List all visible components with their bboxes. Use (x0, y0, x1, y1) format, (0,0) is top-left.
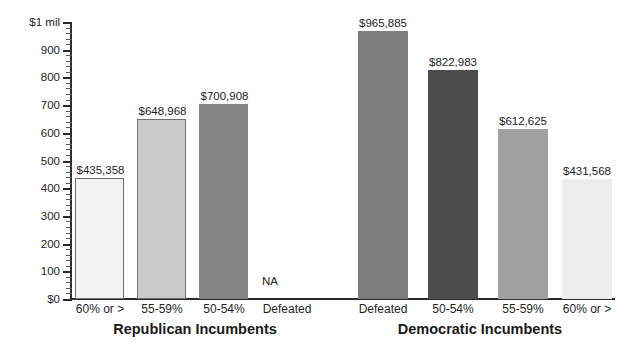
y-axis-minor-tick (66, 100, 72, 101)
y-axis-major-tick (63, 161, 72, 163)
y-axis-minor-tick (66, 94, 72, 95)
bar (358, 31, 408, 299)
y-axis-major-tick (63, 188, 72, 190)
y-axis-tick-label: 900 (0, 45, 60, 57)
group-axis-label: Republican Incumbents (60, 322, 330, 337)
y-axis-minor-tick (66, 255, 72, 256)
bar (562, 179, 612, 299)
y-axis-major-tick (63, 133, 72, 135)
y-axis-tick-label: 600 (0, 128, 60, 140)
y-axis-minor-tick (66, 293, 72, 294)
x-axis-category-label: 50-54% (191, 303, 257, 315)
bar (137, 119, 186, 299)
bar-chart: $1 mil900800700600500400300200100$0 $435… (0, 0, 629, 351)
y-axis-tick-label: 200 (0, 239, 60, 251)
x-axis-category-label: Defeated (348, 303, 418, 315)
y-axis-major-tick (63, 299, 72, 301)
y-axis-minor-tick (66, 39, 72, 40)
bar-value-label: $965,885 (352, 18, 414, 30)
y-axis-minor-tick (66, 72, 72, 73)
y-axis-minor-tick (66, 61, 72, 62)
bar-na-label: NA (262, 276, 278, 288)
bar-value-label: $700,908 (194, 91, 255, 103)
y-axis-minor-tick (66, 127, 72, 128)
y-axis-minor-tick (66, 210, 72, 211)
y-axis-minor-tick (66, 28, 72, 29)
x-axis-category-label: 60% or > (554, 303, 620, 315)
y-axis-minor-tick (66, 33, 72, 34)
x-axis-category-label: 50-54% (420, 303, 486, 315)
y-axis-major-tick (63, 105, 72, 107)
bar-value-label: $612,625 (492, 116, 554, 128)
y-axis-tick-label: $0 (0, 294, 60, 306)
y-axis-tick-label: 300 (0, 211, 60, 223)
y-axis-tick-label: 400 (0, 183, 60, 195)
y-axis-minor-tick (66, 116, 72, 117)
y-axis-minor-tick (66, 144, 72, 145)
y-axis-minor-tick (66, 227, 72, 228)
y-axis-tick-label: 100 (0, 266, 60, 278)
y-axis-minor-tick (66, 155, 72, 156)
y-axis-minor-tick (66, 288, 72, 289)
y-axis-major-tick (63, 271, 72, 273)
y-axis-tick-label: 700 (0, 100, 60, 112)
y-axis-minor-tick (66, 66, 72, 67)
bar (428, 70, 478, 299)
bar (199, 104, 248, 299)
y-axis-minor-tick (66, 238, 72, 239)
y-axis-minor-tick (66, 277, 72, 278)
y-axis-minor-tick (66, 233, 72, 234)
y-axis-minor-tick (66, 138, 72, 139)
y-axis-minor-tick (66, 282, 72, 283)
y-axis-minor-tick (66, 260, 72, 261)
bar-value-label: $822,983 (422, 57, 484, 69)
y-axis-minor-tick (66, 177, 72, 178)
y-axis-minor-tick (66, 249, 72, 250)
bar-value-label: $431,568 (556, 166, 618, 178)
bar (498, 129, 548, 299)
y-axis-major-tick (63, 216, 72, 218)
y-axis-major-tick (63, 77, 72, 79)
y-axis-minor-tick (66, 266, 72, 267)
y-axis-tick-label: $1 mil (0, 17, 60, 29)
y-axis-minor-tick (66, 149, 72, 150)
group-axis-label: Democratic Incumbents (340, 322, 620, 337)
y-axis-minor-tick (66, 111, 72, 112)
y-axis-major-tick (63, 244, 72, 246)
y-axis-major-tick (63, 22, 72, 24)
y-axis-minor-tick (66, 221, 72, 222)
y-axis-minor-tick (66, 205, 72, 206)
y-axis-tick-label: 800 (0, 72, 60, 84)
y-axis-minor-tick (66, 44, 72, 45)
y-axis-tick-label: 500 (0, 156, 60, 168)
x-axis-category-label: 55-59% (129, 303, 195, 315)
y-axis-minor-tick (66, 122, 72, 123)
x-axis-category-label: 55-59% (490, 303, 556, 315)
y-axis-minor-tick (66, 55, 72, 56)
y-axis-minor-tick (66, 83, 72, 84)
y-axis-minor-tick (66, 183, 72, 184)
x-axis-category-label: Defeated (252, 303, 322, 315)
bar-value-label: $648,968 (132, 106, 193, 118)
y-axis-minor-tick (66, 88, 72, 89)
x-axis-category-label: 60% or > (67, 303, 133, 315)
y-axis-major-tick (63, 50, 72, 52)
y-axis-minor-tick (66, 199, 72, 200)
y-axis-minor-tick (66, 194, 72, 195)
bar-value-label: $435,358 (70, 165, 131, 177)
bar (75, 178, 124, 299)
